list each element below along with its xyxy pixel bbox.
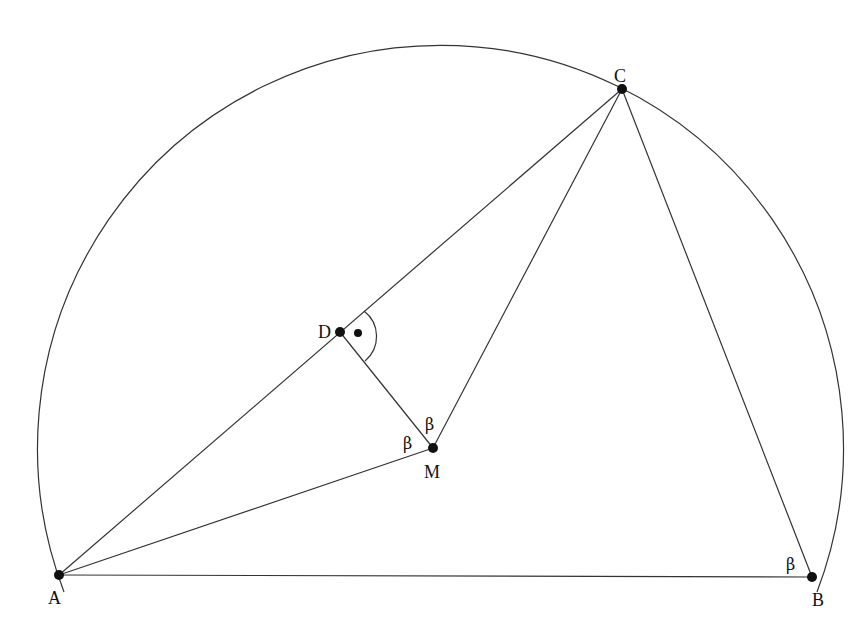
point-a (54, 570, 64, 580)
right-angle-dot (354, 329, 362, 337)
point-m (428, 443, 438, 453)
point-b (807, 572, 817, 582)
segment-cm (433, 89, 622, 448)
segment-am (59, 448, 433, 575)
label-a: A (48, 588, 61, 608)
label-d: D (318, 322, 331, 342)
right-angle-arc (364, 311, 377, 361)
angle-beta-dmc: β (425, 415, 434, 434)
label-b: B (812, 590, 824, 610)
label-m: M (424, 462, 440, 482)
segment-bc (622, 89, 812, 577)
circle-arc (38, 45, 844, 592)
angle-beta-amd: β (403, 434, 412, 453)
segment-ab (59, 575, 812, 577)
angle-beta-abc: β (786, 555, 795, 574)
segment-dm (340, 332, 433, 448)
point-d (335, 327, 345, 337)
label-c: C (614, 66, 626, 86)
geometry-diagram: A B C D M β β β (0, 0, 863, 628)
